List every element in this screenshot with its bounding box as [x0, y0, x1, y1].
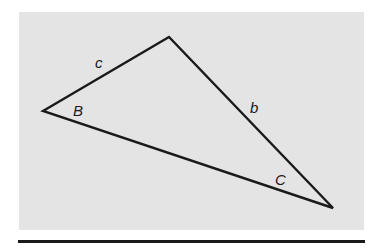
- triangle: [43, 37, 333, 208]
- horizontal-rule: [18, 240, 365, 243]
- angle-label-B: B: [73, 102, 83, 119]
- triangle-diagram: c b B C: [0, 0, 388, 251]
- side-label-c: c: [95, 54, 103, 71]
- side-label-b: b: [250, 99, 258, 116]
- angle-label-C: C: [275, 171, 286, 188]
